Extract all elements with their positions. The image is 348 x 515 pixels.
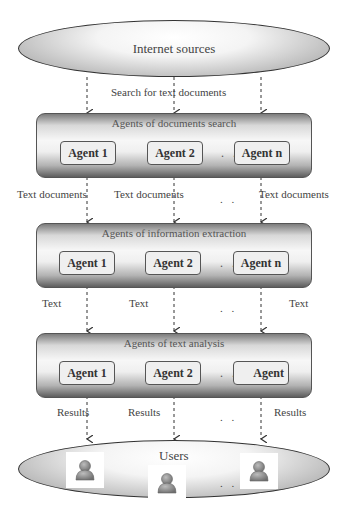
edge-label: Results <box>274 406 306 418</box>
edge-label: Results <box>57 406 89 418</box>
user-icon <box>75 459 95 481</box>
user-card <box>66 452 104 488</box>
edge-label: Text <box>289 297 308 309</box>
layer-title: Agents of documents search <box>37 117 311 129</box>
layer-documents-search: Agents of documents search Agent 1 Agent… <box>36 113 312 178</box>
layer-text-analysis: Agents of text analysis Agent 1 Agent 2 … <box>36 333 312 398</box>
user-card <box>148 465 186 501</box>
agent-box: Agent 2 <box>145 361 201 385</box>
agent-box: Agent 2 <box>145 251 201 275</box>
internet-sources-node: Internet sources <box>18 20 330 77</box>
edge-label: Results <box>128 406 160 418</box>
layer-title: Agents of information extraction <box>37 227 311 239</box>
ellipsis: . . <box>220 193 237 205</box>
search-edge-label: Search for text documents <box>111 86 226 98</box>
ellipsis: . . <box>220 477 237 489</box>
edge-label: Text documents <box>114 188 184 200</box>
agent-box: Agent 1 <box>59 251 115 275</box>
user-icon <box>249 460 269 482</box>
user-icon <box>157 472 177 494</box>
agent-box: Agent 1 <box>60 141 116 165</box>
edge-label: Text documents <box>259 188 329 200</box>
edge-label: Text documents <box>17 188 87 200</box>
edge-label: Text <box>129 297 148 309</box>
agent-box: Agent <box>233 361 289 385</box>
user-card <box>240 453 278 489</box>
layer-title: Agents of text analysis <box>37 337 311 349</box>
agent-box: Agent n <box>234 141 290 165</box>
agent-box: Agent 2 <box>147 141 203 165</box>
agent-box: Agent n <box>233 251 289 275</box>
ellipsis: . . <box>220 411 237 423</box>
agent-box: Agent 1 <box>59 361 115 385</box>
edge-label: Text <box>42 297 61 309</box>
ellipsis: . . <box>220 302 237 314</box>
internet-sources-label: Internet sources <box>19 41 329 57</box>
users-label: Users <box>159 448 189 464</box>
layer-information-extraction: Agents of information extraction Agent 1… <box>36 223 312 288</box>
